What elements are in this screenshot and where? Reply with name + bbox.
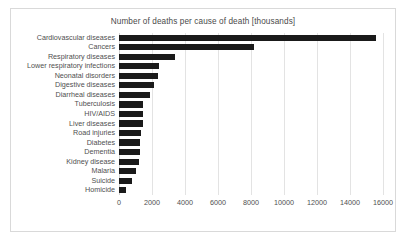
bar-row [119,101,383,107]
plot-wrapper: Cardiovascular diseasesCancersRespirator… [11,9,395,231]
bar [119,82,154,88]
bar-row [119,111,383,117]
bar [119,111,143,117]
category-label: Tuberculosis [11,100,115,108]
bar-row [119,44,383,50]
x-axis-tick-labels: 0200040006000800010000120001400016000 [119,198,383,212]
bar-row [119,35,383,41]
category-label: Homicide [11,186,115,194]
chart-frame: Number of deaths per cause of death [tho… [10,8,396,232]
bar [119,44,254,50]
bar [119,168,136,174]
x-tick-label: 16000 [373,198,393,207]
bar-row [119,63,383,69]
bar-row [119,54,383,60]
category-label: Respiratory diseases [11,53,115,61]
category-label: Cancers [11,43,115,51]
category-label: Suicide [11,177,115,185]
category-label: Neonatal disorders [11,72,115,80]
bar-row [119,82,383,88]
category-label: Liver diseases [11,120,115,128]
category-label: Diabetes [11,139,115,147]
bar [119,159,139,165]
category-label: Road injuries [11,129,115,137]
bar [119,120,143,126]
bar-row [119,149,383,155]
bar-row [119,73,383,79]
gridline [383,33,384,195]
bar [119,101,143,107]
category-label: Kidney disease [11,158,115,166]
x-tick-label: 8000 [243,198,259,207]
bar [119,73,158,79]
bar [119,187,126,193]
bar [119,149,140,155]
x-tick-label: 10000 [274,198,294,207]
x-tick-label: 6000 [210,198,226,207]
bar-row [119,159,383,165]
bar [119,139,140,145]
x-tick-label: 2000 [144,198,160,207]
bar [119,178,132,184]
bar-row [119,92,383,98]
category-label: Digestive diseases [11,81,115,89]
category-label: Cardiovascular diseases [11,34,115,42]
category-label: Diarrheal diseases [11,91,115,99]
bar [119,92,150,98]
bar-row [119,120,383,126]
bar-row [119,130,383,136]
x-tick-label: 0 [117,198,121,207]
category-label: HIV/AIDS [11,110,115,118]
bar-series [119,33,383,195]
category-label: Dementia [11,148,115,156]
bar-row [119,168,383,174]
x-tick-label: 4000 [177,198,193,207]
bar [119,130,141,136]
x-tick-label: 14000 [340,198,360,207]
bar [119,63,159,69]
category-label: Malaria [11,167,115,175]
category-label: Lower respiratory infections [11,62,115,70]
bar-row [119,178,383,184]
plot-area [119,33,383,195]
y-axis-category-labels: Cardiovascular diseasesCancersRespirator… [11,33,115,195]
bar [119,35,376,41]
x-tick-label: 12000 [307,198,327,207]
bar [119,54,175,60]
bar-row [119,187,383,193]
bar-row [119,139,383,145]
